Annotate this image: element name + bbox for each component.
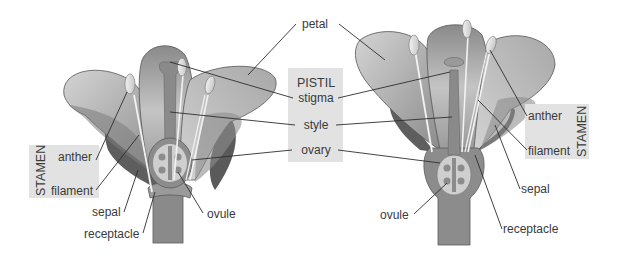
- label-right-filament: filament: [528, 144, 571, 158]
- label-left-stamen-title: STAMEN: [34, 145, 48, 196]
- label-right-stamen-title: STAMEN: [575, 106, 589, 157]
- label-right-ovule: ovule: [380, 208, 409, 222]
- left-stem: [153, 193, 183, 243]
- label-right-anther: anther: [528, 109, 562, 123]
- label-left-ovule: ovule: [207, 207, 236, 221]
- label-left-receptacle: receptacle: [84, 227, 140, 241]
- label-style: style: [304, 118, 329, 132]
- left-ovule: [159, 154, 166, 161]
- left-anther: [125, 74, 135, 94]
- label-left-sepal: sepal: [92, 205, 121, 219]
- right-stigma: [444, 58, 464, 67]
- label-pistil-title: PISTIL: [297, 76, 335, 90]
- label-left-filament: filament: [51, 184, 94, 198]
- label-ovary: ovary: [301, 143, 330, 157]
- label-left-anther: anther: [58, 150, 92, 164]
- label-petal: petal: [302, 17, 328, 31]
- right-style: [448, 70, 460, 155]
- flower-anatomy-diagram: petal PISTIL stigma style ovary STAMEN a…: [0, 0, 618, 261]
- label-stigma: stigma: [298, 91, 334, 105]
- label-right-sepal: sepal: [521, 182, 550, 196]
- label-right-receptacle: receptacle: [503, 222, 559, 236]
